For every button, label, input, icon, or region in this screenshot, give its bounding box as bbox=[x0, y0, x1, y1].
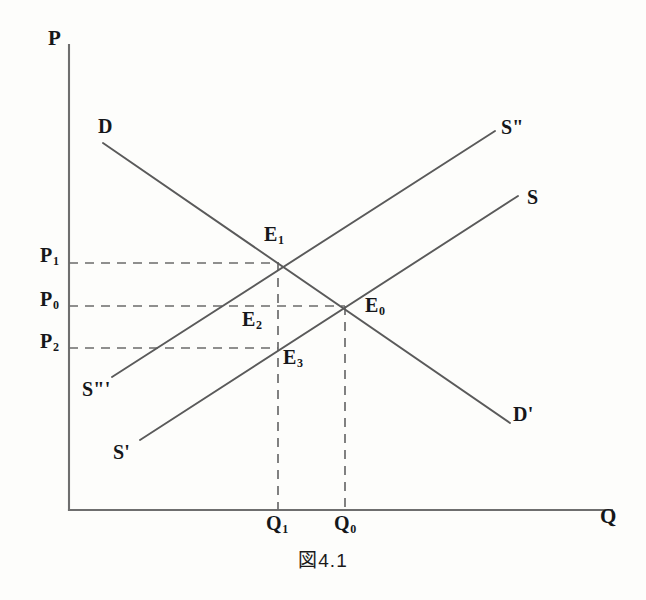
price-label-p2: P2 bbox=[40, 331, 59, 351]
supply-start-label: S' bbox=[113, 442, 130, 462]
price-label-p1: P1 bbox=[40, 245, 59, 265]
price-label-p0: P0 bbox=[40, 289, 59, 309]
price-base: P bbox=[40, 244, 52, 266]
axes-group bbox=[69, 45, 612, 510]
supply-curve bbox=[140, 196, 518, 440]
demand-start-label: D bbox=[98, 116, 113, 136]
guide-lines-group bbox=[69, 262, 345, 510]
equilibrium-label-e1: E1 bbox=[264, 224, 284, 244]
equilibrium-label-e2: E2 bbox=[242, 309, 262, 329]
price-base: P bbox=[40, 288, 52, 310]
demand-end-label: D' bbox=[513, 404, 533, 424]
price-base: P bbox=[40, 330, 52, 352]
y-axis-label: P bbox=[48, 28, 61, 49]
supply-end-label: S bbox=[527, 187, 538, 207]
demand-curve bbox=[103, 143, 510, 423]
equilibrium-base: E bbox=[264, 223, 278, 245]
price-subscript: 1 bbox=[53, 254, 59, 268]
quantity-label-q1: Q1 bbox=[266, 513, 288, 533]
equilibrium-subscript: 2 bbox=[256, 318, 262, 332]
shifted-supply-curve bbox=[112, 131, 495, 377]
quantity-subscript: 0 bbox=[350, 522, 356, 536]
quantity-base: Q bbox=[266, 512, 282, 534]
supply2-end-label: S" bbox=[501, 117, 524, 137]
figure-caption: 図4.1 bbox=[0, 545, 646, 572]
equilibrium-base: E bbox=[242, 308, 256, 330]
price-subscript: 0 bbox=[53, 298, 59, 312]
price-subscript: 2 bbox=[53, 340, 59, 354]
supply-demand-chart bbox=[0, 0, 646, 600]
x-axis-label: Q bbox=[600, 506, 617, 527]
equilibrium-label-e3: E3 bbox=[283, 347, 303, 367]
quantity-label-q0: Q0 bbox=[334, 513, 356, 533]
quantity-base: Q bbox=[334, 512, 350, 534]
equilibrium-label-e0: E0 bbox=[365, 295, 385, 315]
equilibrium-subscript: 3 bbox=[297, 356, 303, 370]
equilibrium-base: E bbox=[365, 294, 379, 316]
quantity-subscript: 1 bbox=[282, 522, 288, 536]
economics-figure: P Q D D' S S' S" S"' P1 P0 P2 Q1 Q0 E1 E… bbox=[0, 0, 646, 600]
supply2-start-label: S"' bbox=[82, 379, 110, 399]
equilibrium-subscript: 1 bbox=[278, 233, 284, 247]
equilibrium-subscript: 0 bbox=[379, 304, 385, 318]
equilibrium-base: E bbox=[283, 346, 297, 368]
curves-group bbox=[103, 131, 518, 440]
